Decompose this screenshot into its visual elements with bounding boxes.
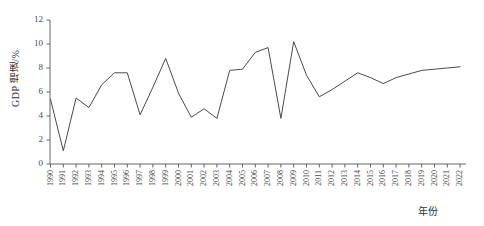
x-tick-label: 2012	[328, 170, 336, 186]
x-tick-label: 2015	[367, 170, 375, 186]
x-tick-label: 1996	[123, 170, 131, 186]
x-tick-label: 2004	[226, 170, 234, 186]
x-tick-label: 2011	[315, 170, 323, 186]
x-tick-label: 1998	[149, 170, 157, 186]
x-axis-ticks	[51, 164, 461, 168]
x-tick-label: 2018	[405, 170, 413, 186]
x-tick-label: 2008	[277, 170, 285, 186]
plot-area	[50, 20, 468, 164]
x-tick-label: 1999	[162, 170, 170, 186]
x-tick-label: 2021	[443, 170, 451, 186]
x-tick-label: 1991	[59, 170, 67, 186]
x-tick-label: 2002	[200, 170, 208, 186]
x-tick-label: 2016	[379, 170, 387, 186]
x-tick-label: 2005	[239, 170, 247, 186]
x-tick-label: 2003	[213, 170, 221, 186]
x-tick-label: 1990	[47, 170, 55, 186]
x-tick-label: 1994	[98, 170, 106, 186]
x-tick-label: 2007	[264, 170, 272, 186]
x-tick-label: 2010	[303, 170, 311, 186]
x-tick-label: 1997	[136, 170, 144, 186]
gdp-growth-line-chart: GDP 增速/% 年份 024681012 199019911992199319…	[0, 0, 484, 226]
x-tick-label: 1995	[111, 170, 119, 186]
data-series-line	[51, 42, 461, 151]
x-tick-label: 2009	[290, 170, 298, 186]
x-tick-label: 2022	[456, 170, 464, 186]
x-tick-label: 2006	[251, 170, 259, 186]
x-tick-label: 2019	[418, 170, 426, 186]
x-tick-label: 2001	[187, 170, 195, 186]
x-tick-label: 2017	[392, 170, 400, 186]
x-tick-label: 1992	[72, 170, 80, 186]
x-tick-label: 2014	[354, 170, 362, 186]
chart-svg	[50, 20, 468, 170]
x-tick-label: 2020	[431, 170, 439, 186]
x-tick-label: 1993	[85, 170, 93, 186]
x-tick-label: 2013	[341, 170, 349, 186]
x-tick-label: 2000	[175, 170, 183, 186]
